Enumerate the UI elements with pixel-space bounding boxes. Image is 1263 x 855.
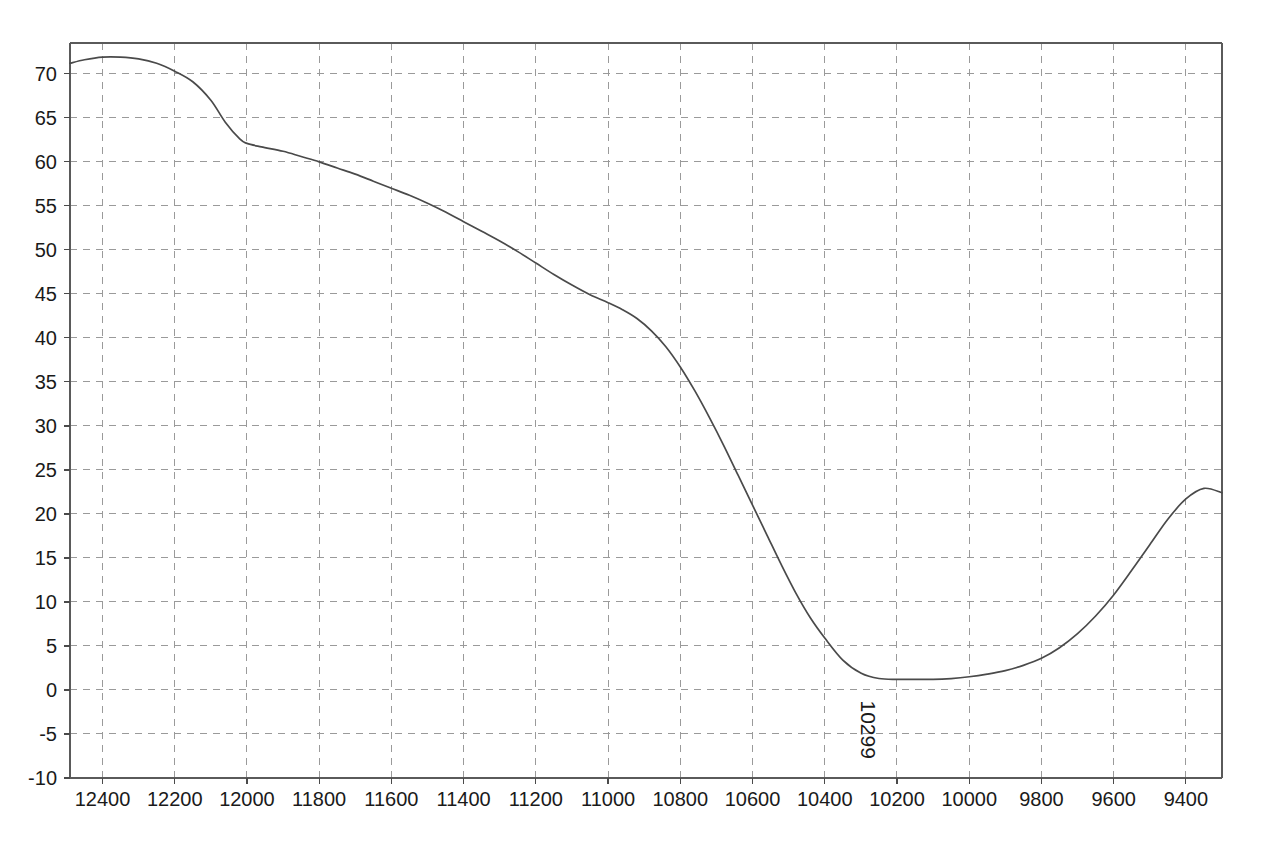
x-tick-label: 10800 — [652, 788, 708, 810]
x-tick-label: 10400 — [797, 788, 853, 810]
y-tick-label: 0 — [46, 679, 57, 701]
x-tick-label: 11600 — [364, 788, 418, 810]
y-tick-label: 45 — [35, 283, 57, 305]
y-tick-label: -5 — [39, 723, 57, 745]
y-tick-label: 15 — [35, 547, 57, 569]
y-tick-label: 60 — [35, 151, 57, 173]
x-tick-label: 11200 — [509, 788, 563, 810]
y-tick-label: 30 — [35, 415, 57, 437]
data-curve-1 — [70, 57, 1222, 680]
x-tick-label: 10200 — [869, 788, 925, 810]
x-tick-label: 12000 — [219, 788, 275, 810]
y-tick-label: 25 — [35, 459, 57, 481]
tick-marks — [64, 74, 1186, 784]
x-tick-label: 12200 — [147, 788, 203, 810]
x-tick-label: 11000 — [581, 788, 635, 810]
data-series-layer — [70, 57, 1222, 680]
y-tick-label: 55 — [35, 195, 57, 217]
x-axis-tick-labels: 1240012200120001180011600114001120011000… — [75, 788, 1208, 810]
grid-layer — [70, 43, 1222, 778]
x-tick-label: 10000 — [941, 788, 997, 810]
y-tick-label: 70 — [35, 63, 57, 85]
y-tick-label: 5 — [46, 635, 57, 657]
x-tick-label: 9800 — [1019, 788, 1064, 810]
y-tick-label: 35 — [35, 371, 57, 393]
line-chart: -10-50510152025303540455055606570 124001… — [0, 0, 1263, 855]
x-tick-label: 12400 — [75, 788, 131, 810]
x-tick-label: 11800 — [292, 788, 346, 810]
y-axis-tick-labels: -10-50510152025303540455055606570 — [28, 63, 57, 789]
y-tick-label: 40 — [35, 327, 57, 349]
annotations-layer: 10299 — [857, 701, 880, 759]
x-tick-label: 11400 — [437, 788, 491, 810]
x-tick-label: 9400 — [1164, 788, 1209, 810]
x-tick-label: 10600 — [725, 788, 781, 810]
x-tick-label: 9600 — [1091, 788, 1136, 810]
y-tick-label: 50 — [35, 239, 57, 261]
minimum-peak-label: 10299 — [857, 701, 880, 759]
y-tick-label: 65 — [35, 107, 57, 129]
chart-root: -10-50510152025303540455055606570 124001… — [0, 0, 1263, 855]
axis-layer — [70, 43, 1222, 778]
y-tick-label: 10 — [35, 591, 57, 613]
y-tick-label: -10 — [28, 767, 57, 789]
y-tick-label: 20 — [35, 503, 57, 525]
